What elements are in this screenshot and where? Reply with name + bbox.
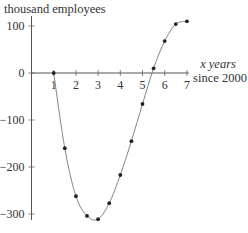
data-point <box>141 102 145 106</box>
data-point <box>74 194 78 198</box>
data-point <box>107 201 111 205</box>
y-axis-label: thousand employees <box>4 2 106 16</box>
x-tick-label: 7 <box>184 78 190 92</box>
y-tick-label: 100 <box>7 19 25 33</box>
x-axis-label-line2: since 2000 <box>193 71 247 85</box>
data-point <box>174 22 178 26</box>
x-tick-label: 5 <box>140 78 146 92</box>
series-line <box>54 21 187 220</box>
data-point <box>130 139 134 143</box>
data-curve <box>54 21 187 220</box>
data-point <box>63 146 67 150</box>
x-axis-label-line1: x years <box>199 57 236 71</box>
data-point <box>118 173 122 177</box>
data-point <box>152 66 156 70</box>
x-tick-label: 2 <box>73 78 79 92</box>
data-point <box>96 217 100 221</box>
data-point <box>85 214 89 218</box>
y-tick-label: −100 <box>0 113 25 127</box>
x-tick-label: 6 <box>162 78 168 92</box>
data-point <box>185 19 189 23</box>
y-tick-label: 0 <box>19 66 25 80</box>
y-tick-label: −200 <box>0 160 25 174</box>
data-point <box>52 71 56 75</box>
x-tick-label: 4 <box>117 78 123 92</box>
line-chart: 12345671000−100−200−300 thousand employe… <box>0 0 248 233</box>
data-point <box>163 39 167 43</box>
data-points <box>52 19 189 221</box>
x-tick-label: 3 <box>95 78 101 92</box>
axes: 12345671000−100−200−300 <box>0 16 190 221</box>
y-tick-label: −300 <box>0 207 25 221</box>
